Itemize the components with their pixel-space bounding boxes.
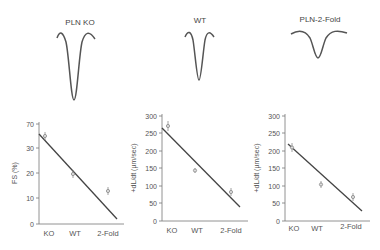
svg-text:70: 70 (26, 121, 34, 128)
trace-pln-2-fold (291, 31, 347, 58)
chart-dldt-2: 300 250 200 150 100 50 0 +dL/dt (µm/sec)… (253, 113, 370, 234)
svg-text:200: 200 (145, 148, 157, 155)
svg-text:200: 200 (268, 148, 280, 155)
svg-text:300: 300 (145, 113, 157, 120)
trace-wt (185, 32, 214, 80)
svg-text:250: 250 (268, 130, 280, 137)
figure-canvas: 70 30 20 10 0 FS (%) KO WT 2-Fold 300 25… (0, 0, 380, 250)
svg-text:KO: KO (44, 229, 55, 238)
svg-text:KO: KO (289, 224, 300, 233)
svg-text:0: 0 (276, 218, 280, 225)
svg-text:10: 10 (26, 195, 34, 202)
svg-text:0: 0 (153, 218, 157, 225)
svg-text:50: 50 (149, 200, 157, 207)
svg-text:300: 300 (268, 113, 280, 120)
svg-text:WT: WT (311, 224, 323, 233)
svg-text:+dL/dt (µm/sec): +dL/dt (µm/sec) (130, 144, 138, 193)
svg-text:30: 30 (26, 145, 34, 152)
svg-text:150: 150 (268, 165, 280, 172)
svg-text:150: 150 (145, 165, 157, 172)
chart-fs: 70 30 20 10 0 FS (%) KO WT 2-Fold (11, 121, 124, 239)
svg-text:2-Fold: 2-Fold (97, 229, 118, 238)
svg-text:KO: KO (167, 226, 178, 235)
svg-text:250: 250 (145, 130, 157, 137)
svg-text:WT: WT (191, 226, 203, 235)
chart-dldt-1: 300 250 200 150 100 50 0 +dL/dt (µm/sec)… (130, 113, 248, 236)
svg-text:FS (%): FS (%) (11, 162, 19, 184)
svg-text:50: 50 (272, 200, 280, 207)
svg-text:+dL/dt (µm/sec): +dL/dt (µm/sec) (253, 144, 261, 193)
trace-pln-ko (57, 33, 95, 100)
svg-text:100: 100 (145, 183, 157, 190)
svg-text:WT: WT (69, 229, 81, 238)
svg-text:2-Fold: 2-Fold (340, 222, 361, 231)
svg-text:0: 0 (30, 221, 34, 228)
svg-text:20: 20 (26, 170, 34, 177)
svg-text:2-Fold: 2-Fold (220, 226, 241, 235)
svg-text:100: 100 (268, 183, 280, 190)
